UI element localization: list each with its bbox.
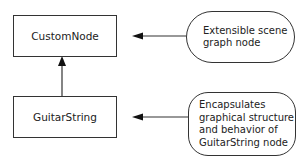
arrowhead-up-icon <box>58 56 66 66</box>
arrowhead-left-icon <box>132 114 143 121</box>
guitar-string-label: GuitarString <box>33 111 97 123</box>
callout-custom-node: Extensible scene graph node <box>186 11 295 63</box>
callout-guitar-string-text: Encapsulates graphical structure and beh… <box>199 99 294 149</box>
custom-node-box: CustomNode <box>13 15 117 57</box>
callout-guitar-string: Encapsulates graphical structure and beh… <box>188 92 296 156</box>
arrowhead-left-icon <box>132 33 143 40</box>
guitar-string-box: GuitarString <box>13 96 117 138</box>
custom-node-label: CustomNode <box>31 30 99 42</box>
callout-custom-node-text: Extensible scene graph node <box>203 25 287 50</box>
